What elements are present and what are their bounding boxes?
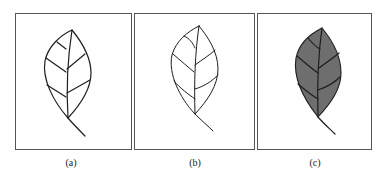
leaf-outline-icon [16,14,133,151]
panel-a [15,13,132,150]
panel-c [257,13,372,150]
caption-c: (c) [295,157,335,168]
caption-b: (b) [175,157,215,168]
caption-a: (a) [51,157,91,168]
leaf-outline-icon [135,14,256,151]
filled-leaf-icon [258,14,373,151]
panel-b [134,13,255,150]
